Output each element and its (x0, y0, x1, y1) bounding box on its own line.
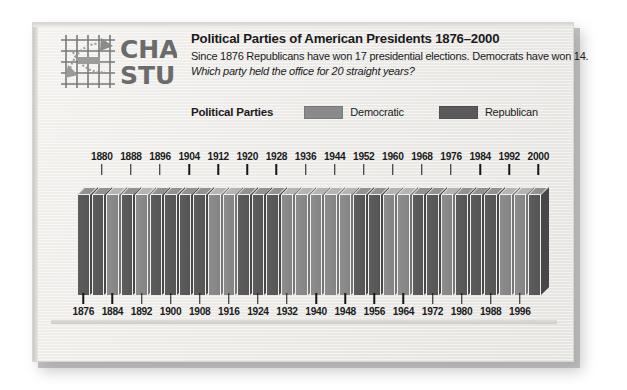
bar-front-face (528, 195, 541, 295)
axis-tick-mark (218, 164, 219, 175)
axis-tick-mark (509, 164, 510, 175)
axis-tick-label: 1940 (305, 306, 326, 317)
axis-tick-1924: 1924 (247, 293, 268, 317)
axis-tick-label: 1988 (480, 306, 501, 317)
bar-front-face (368, 195, 381, 295)
axis-tick-1908: 1908 (189, 293, 210, 317)
bar-front-face (281, 195, 294, 295)
axis-tick-label: 2000 (528, 151, 549, 162)
axis-tick-label: 1876 (73, 306, 94, 317)
axis-tick-mark (479, 164, 480, 175)
bar-front-face (484, 195, 497, 295)
bar-front-face (295, 195, 308, 295)
bar-front-face (339, 195, 352, 295)
axis-tick-label: 1912 (208, 151, 229, 162)
axis-tick-mark (421, 164, 422, 175)
axis-tick-1888: 1888 (120, 151, 141, 175)
president-party-chart: 1880188818961904191219201928193619441952… (55, 151, 555, 321)
bar-front-face (310, 195, 323, 295)
axis-tick-label: 1936 (295, 151, 316, 162)
bar-front-face (412, 195, 425, 295)
axis-tick-1960: 1960 (382, 151, 403, 175)
axis-tick-mark (130, 164, 131, 175)
axis-tick-mark (159, 164, 160, 175)
chart-poster-panel: CHART STUDY Political Parties of America… (32, 22, 574, 362)
chart-study-logo: CHART STUDY (59, 32, 177, 90)
bar-1896-republican (150, 195, 163, 295)
bar-1980-republican (455, 195, 468, 295)
axis-tick-mark (538, 164, 539, 175)
bar-1960-democratic (383, 195, 396, 295)
bar-front-face (92, 195, 105, 295)
bar-1880-republican (92, 195, 105, 295)
axis-tick-mark (247, 164, 248, 175)
axis-ticks-top: 1880188818961904191219201928193619441952… (55, 151, 555, 179)
bar-front-face (179, 195, 192, 295)
screenshot-root: CHART STUDY Political Parties of America… (0, 0, 627, 390)
bar-front-face (135, 195, 148, 295)
axis-tick-mark (199, 293, 200, 304)
axis-tick-mark (490, 293, 491, 304)
bar-1932-democratic (281, 195, 294, 295)
legend-label-democratic: Democratic (350, 106, 404, 118)
axis-tick-1876: 1876 (73, 293, 94, 317)
bar-1964-democratic (397, 195, 410, 295)
axis-tick-1892: 1892 (131, 293, 152, 317)
bar-front-face (397, 195, 410, 295)
bar-1892-democratic (135, 195, 148, 295)
axis-tick-1944: 1944 (324, 151, 345, 175)
axis-tick-label: 1984 (469, 151, 490, 162)
axis-tick-label: 1928 (266, 151, 287, 162)
axis-tick-label: 1920 (237, 151, 258, 162)
bar-1916-democratic (223, 195, 236, 295)
axis-tick-label: 1956 (364, 306, 385, 317)
axis-tick-1904: 1904 (178, 151, 199, 175)
axis-tick-label: 1888 (120, 151, 141, 162)
bar-front-face (470, 195, 483, 295)
bar-1972-republican (426, 195, 439, 295)
axis-tick-mark (141, 293, 142, 304)
axis-ticks-bottom: 1876188418921900190819161924193219401948… (55, 293, 555, 321)
bar-front-face (252, 195, 265, 295)
axis-tick-label: 1880 (91, 151, 112, 162)
bar-1940-democratic (310, 195, 323, 295)
axis-tick-1984: 1984 (469, 151, 490, 175)
axis-tick-mark (392, 164, 393, 175)
bar-1944-democratic (324, 195, 337, 295)
axis-tick-mark (450, 164, 451, 175)
axis-tick-1896: 1896 (149, 151, 170, 175)
axis-tick-1972: 1972 (422, 293, 443, 317)
axis-tick-1912: 1912 (208, 151, 229, 175)
axis-tick-label: 1924 (247, 306, 268, 317)
legend-item-republican: Republican (439, 106, 538, 119)
axis-tick-1880: 1880 (91, 151, 112, 175)
bar-front-face (121, 195, 134, 295)
axis-tick-label: 1972 (422, 306, 443, 317)
axis-tick-mark (83, 293, 84, 304)
legend-label-republican: Republican (485, 106, 538, 118)
axis-tick-1988: 1988 (480, 293, 501, 317)
bar-1876-republican (77, 195, 90, 295)
axis-tick-label: 1892 (131, 306, 152, 317)
bar-1920-republican (237, 195, 250, 295)
bar-front-face (208, 195, 221, 295)
axis-tick-mark (286, 293, 287, 304)
axis-tick-label: 1948 (334, 306, 355, 317)
axis-tick-label: 1932 (276, 306, 297, 317)
axis-tick-1968: 1968 (411, 151, 432, 175)
bar-1884-democratic (106, 195, 119, 295)
bar-1992-democratic (499, 195, 512, 295)
bar-front-face (383, 195, 396, 295)
bar-1952-republican (353, 195, 366, 295)
axis-tick-mark (374, 293, 375, 304)
bar-1900-republican (164, 195, 177, 295)
axis-tick-label: 1884 (102, 306, 123, 317)
axis-tick-label: 1900 (160, 306, 181, 317)
axis-tick-1920: 1920 (237, 151, 258, 175)
axis-tick-mark (112, 293, 113, 304)
bar-front-face (455, 195, 468, 295)
axis-tick-1948: 1948 (334, 293, 355, 317)
bar-front-face (164, 195, 177, 295)
axis-tick-mark (403, 293, 404, 304)
axis-tick-mark (461, 293, 462, 304)
